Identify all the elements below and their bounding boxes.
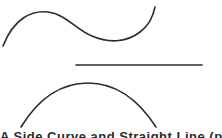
s-curve: [3, 7, 155, 46]
figure-caption: A Side Curve and Straight Line (partiall…: [0, 129, 222, 138]
arc: [21, 83, 156, 127]
diagram-canvas: [0, 0, 222, 138]
